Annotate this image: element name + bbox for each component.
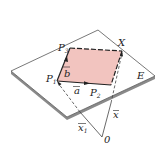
label-origin: 0 (104, 134, 111, 145)
label-vec-b: b (64, 68, 70, 79)
label-vec-x1: x1 (78, 122, 87, 134)
label-plane-e: E (136, 70, 145, 81)
vector-x-solid (102, 103, 111, 137)
label-x-point: X (117, 37, 126, 48)
label-p3: P3 (57, 42, 69, 54)
plane-vector-diagram: P3 X P1 P2 E b a x x1 0 (0, 0, 163, 158)
